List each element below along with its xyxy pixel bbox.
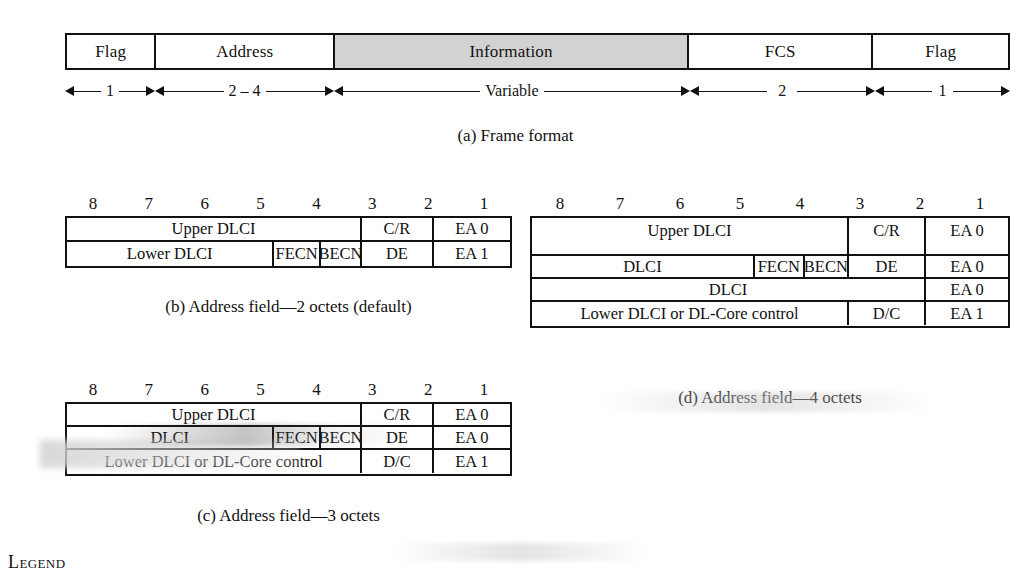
address-field-3-octets-figure: 87654321 Upper DLCIC/REA 0DLCIFECNBECNDE… [65, 378, 512, 476]
bit-row: Lower DLCIFECNBECNDEEA 1 [67, 242, 510, 266]
bit-cell-ea-1: EA 1 [434, 242, 510, 266]
bit-row: DLCIEA 0 [532, 279, 1008, 302]
frame-field-flag-4: Flag [873, 35, 1008, 68]
bit-number-1: 1 [480, 378, 489, 402]
bit-row: Upper DLCIC/REA 0 [67, 218, 510, 242]
bit-cell-upper-dlci: Upper DLCI [67, 218, 362, 240]
bit-number-4: 4 [796, 192, 805, 216]
frame-field-size-4: 1 [875, 78, 1010, 104]
bit-cell-becn: BECN [321, 242, 362, 266]
bit-number-3: 3 [368, 378, 377, 402]
bit-row: Upper DLCIC/REA 0 [532, 218, 1008, 256]
bit-cell-ea-0: EA 0 [434, 427, 510, 448]
bit-number-7: 7 [145, 192, 154, 216]
bit-cell-dlci: DLCI [67, 427, 274, 448]
bit-cell-upper-dlci: Upper DLCI [532, 218, 849, 254]
address-field-2-octets-figure: 87654321 Upper DLCIC/REA 0Lower DLCIFECN… [65, 192, 512, 268]
frame-field-flag-0: Flag [67, 35, 156, 68]
address-field-4-octets-table: Upper DLCIC/REA 0DLCIFECNBECNDEEA 0DLCIE… [530, 216, 1010, 328]
bit-number-3: 3 [856, 192, 865, 216]
arrow-right-icon [681, 86, 690, 96]
bit-number-6: 6 [676, 192, 685, 216]
legend-heading: Legend [8, 552, 65, 573]
frame-format-size-row: 12 – 4Variable21 [65, 78, 1010, 104]
bit-cell-d-c: D/C [362, 450, 434, 473]
bit-number-5: 5 [256, 192, 265, 216]
bit-cell-lower-dlci: Lower DLCI [67, 242, 274, 266]
bit-cell-dlci: DLCI [532, 256, 755, 277]
figure-a-caption: (a) Frame format [0, 126, 1031, 146]
frame-field-fcs-3: FCS [689, 35, 873, 68]
bit-cell-de: DE [362, 427, 434, 448]
bit-number-header-d: 87654321 [530, 192, 1010, 216]
bit-number-2: 2 [424, 378, 433, 402]
bit-cell-dlci: DLCI [532, 279, 926, 300]
bit-number-5: 5 [736, 192, 745, 216]
bit-number-8: 8 [89, 378, 98, 402]
address-field-2-octets-table: Upper DLCIC/REA 0Lower DLCIFECNBECNDEEA … [65, 216, 512, 268]
frame-field-size-label: Variable [480, 83, 543, 99]
arrow-right-icon [146, 86, 155, 96]
bit-cell-ea-0: EA 0 [926, 256, 1008, 277]
bit-cell-ea-0: EA 0 [434, 404, 510, 425]
frame-field-information-2: Information [335, 35, 689, 68]
bit-cell-c-r: C/R [849, 218, 926, 254]
bit-number-1: 1 [480, 192, 489, 216]
bit-cell-ea-0: EA 0 [434, 218, 510, 240]
bit-cell-becn: BECN [805, 256, 849, 277]
frame-field-size-label: 1 [933, 83, 951, 99]
frame-field-size-1: 2 – 4 [155, 78, 335, 104]
bit-number-4: 4 [312, 378, 321, 402]
bit-number-2: 2 [424, 192, 433, 216]
bit-number-8: 8 [556, 192, 565, 216]
bit-cell-ea-1: EA 1 [434, 450, 510, 473]
bit-number-7: 7 [616, 192, 625, 216]
bit-row: DLCIFECNBECNDEEA 0 [532, 256, 1008, 279]
bit-cell-ea-1: EA 1 [926, 302, 1008, 325]
frame-field-size-0: 1 [65, 78, 155, 104]
bit-row: Lower DLCI or DL-Core controlD/CEA 1 [532, 302, 1008, 325]
frame-format-strip: FlagAddressInformationFCSFlag [65, 33, 1010, 70]
frame-field-size-2: Variable [334, 78, 689, 104]
bit-cell-c-r: C/R [362, 404, 434, 425]
bit-number-6: 6 [200, 378, 209, 402]
bit-number-header-b: 87654321 [65, 192, 512, 216]
bit-cell-ea-0: EA 0 [926, 218, 1008, 254]
arrow-right-icon [325, 86, 334, 96]
bit-number-4: 4 [312, 192, 321, 216]
bit-row: Upper DLCIC/REA 0 [67, 404, 510, 427]
arrow-right-icon [1001, 86, 1010, 96]
address-field-4-octets-figure: 87654321 Upper DLCIC/REA 0DLCIFECNBECNDE… [530, 192, 1010, 328]
bit-row: DLCIFECNBECNDEEA 0 [67, 427, 510, 450]
bit-row: Lower DLCI or DL-Core controlD/CEA 1 [67, 450, 510, 473]
bit-cell-de: DE [849, 256, 926, 277]
bit-number-7: 7 [145, 378, 154, 402]
address-field-3-octets-table: Upper DLCIC/REA 0DLCIFECNBECNDEEA 0Lower… [65, 402, 512, 476]
bit-cell-upper-dlci: Upper DLCI [67, 404, 362, 425]
bit-cell-ea-0: EA 0 [926, 279, 1008, 300]
frame-field-size-label: 2 – 4 [224, 83, 266, 99]
frame-field-address-1: Address [156, 35, 335, 68]
bit-cell-fecn: FECN [274, 427, 321, 448]
bit-cell-c-r: C/R [362, 218, 434, 240]
bit-cell-d-c: D/C [849, 302, 926, 325]
bit-cell-de: DE [362, 242, 434, 266]
bit-cell-lower-dlci-or-dl-core-control: Lower DLCI or DL-Core control [67, 450, 362, 473]
bit-number-8: 8 [89, 192, 98, 216]
bit-number-header-c: 87654321 [65, 378, 512, 402]
frame-field-size-label: 2 [773, 83, 791, 99]
bit-cell-lower-dlci-or-dl-core-control: Lower DLCI or DL-Core control [532, 302, 849, 325]
scan-artifact [390, 543, 650, 561]
figure-b-caption: (b) Address field—2 octets (default) [65, 297, 512, 317]
bit-number-6: 6 [200, 192, 209, 216]
frame-field-size-3: 2 [690, 78, 875, 104]
frame-field-size-label: 1 [101, 83, 119, 99]
figure-c-caption: (c) Address field—3 octets [65, 506, 512, 526]
bit-number-3: 3 [368, 192, 377, 216]
bit-number-2: 2 [916, 192, 925, 216]
bit-number-5: 5 [256, 378, 265, 402]
bit-cell-becn: BECN [321, 427, 362, 448]
figure-d-caption: (d) Address field—4 octets [530, 388, 1010, 408]
bit-cell-fecn: FECN [274, 242, 321, 266]
arrow-right-icon [866, 86, 875, 96]
